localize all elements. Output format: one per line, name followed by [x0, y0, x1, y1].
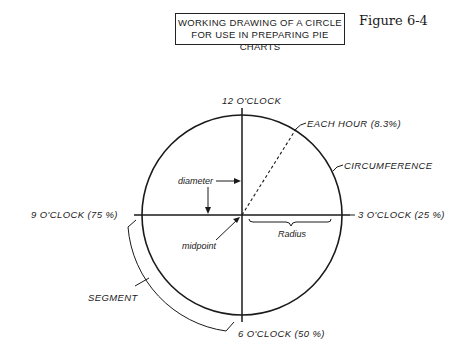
label-circumference: CIRCUMFERENCE	[344, 160, 433, 171]
circle-diagram: 12 O'CLOCK EACH HOUR (8.3%) CIRCUMFERENC…	[0, 0, 471, 356]
midpoint-arrow-line	[216, 220, 237, 240]
label-12-oclock: 12 O'CLOCK	[222, 95, 281, 106]
diameter-arrow-right-head	[234, 178, 241, 184]
diameter-arrow-down-head	[205, 207, 211, 214]
each-hour-leader	[296, 123, 306, 129]
label-midpoint: midpoint	[182, 241, 217, 251]
radius-brace	[249, 219, 331, 226]
label-3-oclock: 3 O'CLOCK (25 %)	[358, 209, 445, 220]
label-6-oclock: 6 O'CLOCK (50 %)	[238, 328, 325, 339]
each-hour-dashed-radius	[242, 129, 296, 215]
label-diameter: diameter	[178, 176, 214, 186]
label-radius: Radius	[278, 229, 307, 239]
midpoint-arrow-head	[233, 217, 240, 223]
circumference-leader	[333, 165, 343, 171]
label-segment: SEGMENT	[88, 292, 139, 303]
label-each-hour: EACH HOUR (8.3%)	[307, 118, 401, 129]
label-9-oclock: 9 O'CLOCK (75 %)	[31, 209, 118, 220]
